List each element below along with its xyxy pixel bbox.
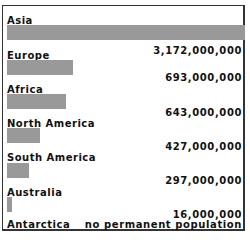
value-label-north-america: 427,000,000 <box>165 141 242 152</box>
category-label-antarctica: Antarctica <box>7 219 70 230</box>
bar-south-america <box>7 163 29 178</box>
category-label-south-america: South America <box>7 152 96 163</box>
bar-asia <box>7 25 245 40</box>
bar-australia <box>7 197 12 212</box>
bar-north-america <box>7 128 40 143</box>
category-label-australia: Australia <box>7 187 62 198</box>
value-label-asia: 3,172,000,000 <box>153 45 242 56</box>
bar-africa <box>7 94 66 109</box>
value-label-africa: 643,000,000 <box>165 107 242 118</box>
bar-europe <box>7 60 73 75</box>
value-label-south-america: 297,000,000 <box>165 175 242 186</box>
value-label-europe: 693,000,000 <box>165 72 242 83</box>
value-label-antarctica: no permanent population <box>85 219 242 230</box>
